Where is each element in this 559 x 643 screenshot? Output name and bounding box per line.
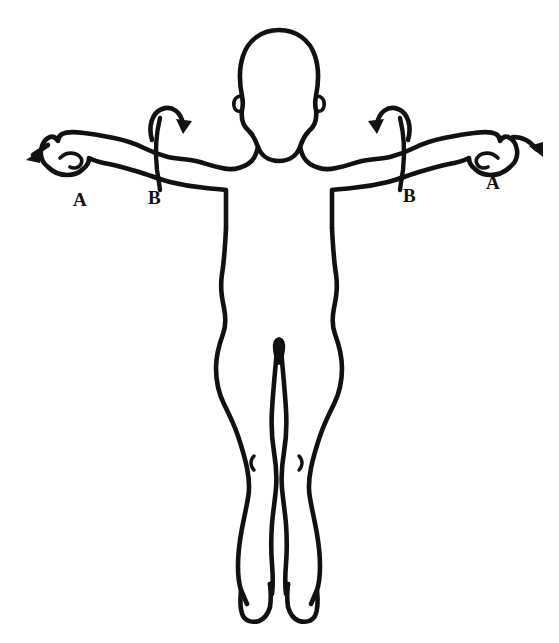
right-knee-mark [299, 456, 302, 470]
lower-body-group [216, 228, 342, 622]
diagram-canvas: A B B A [0, 0, 559, 643]
forearm-marker-lines [156, 118, 404, 190]
right-arm-and-shoulder-outline [300, 132, 517, 228]
label-left-a: A [73, 190, 87, 209]
left-torso-leg-outline [216, 228, 249, 604]
label-right-b: B [403, 186, 416, 205]
right-rotation-arrowhead-icon [368, 119, 384, 134]
upper-body-group [41, 132, 517, 228]
left-fist-knuckle-detail [60, 153, 82, 168]
left-arm-and-shoulder-outline [41, 132, 258, 228]
human-body-outline-figure [0, 0, 559, 643]
right-torso-leg-outline [309, 228, 342, 604]
label-right-a: A [486, 173, 500, 192]
left-hand-arrowhead-icon [26, 149, 42, 163]
head-group [234, 30, 324, 161]
head-outline [240, 30, 318, 161]
label-left-b: B [148, 188, 161, 207]
left-rotation-arrowhead-icon [176, 119, 192, 134]
right-inner-leg-outline [281, 350, 288, 594]
left-inner-leg-outline [270, 350, 277, 594]
left-knee-mark [251, 456, 254, 470]
right-fist-knuckle-detail [476, 153, 498, 168]
